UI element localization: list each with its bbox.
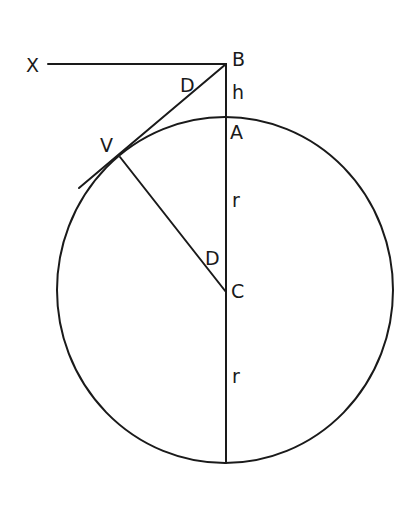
geometry-diagram: X B h A V D r D C r — [0, 0, 399, 510]
label-c: C — [231, 280, 244, 302]
label-v: V — [100, 134, 113, 156]
label-r-upper: r — [232, 189, 240, 211]
label-r-lower: r — [232, 365, 240, 387]
label-d-upper: D — [180, 74, 195, 96]
label-d-lower: D — [205, 247, 220, 269]
label-x: X — [26, 54, 39, 76]
tangent-line-b-v — [79, 64, 226, 188]
label-a: A — [230, 121, 243, 143]
radius-line-v-c — [120, 157, 226, 292]
label-h: h — [232, 81, 244, 103]
label-b: B — [232, 48, 245, 70]
